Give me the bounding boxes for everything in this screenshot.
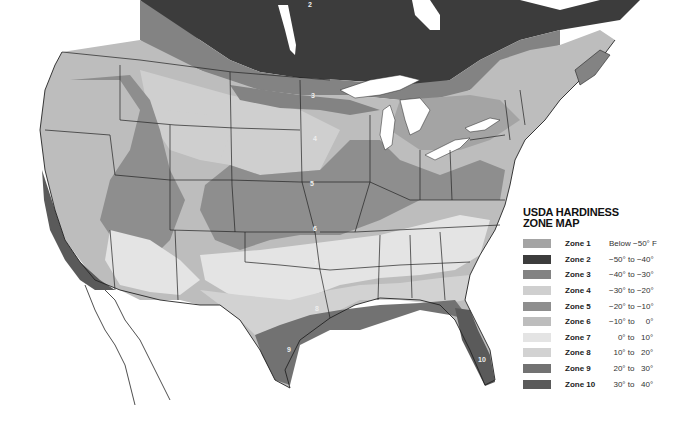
zone-range: 0° to 10° (609, 333, 653, 342)
zone-label-8: 8 (315, 305, 319, 312)
usda-hardiness-zone-map: 2 3 4 5 6 7 8 9 10 USDA HARDINESS ZONE M… (0, 0, 693, 421)
zone-name: Zone 8 (565, 348, 609, 357)
zone-label-6: 6 (313, 225, 317, 232)
swatch (523, 364, 551, 373)
zone-name: Zone 6 (565, 317, 609, 326)
zone-name: Zone 2 (565, 255, 609, 264)
legend-row-zone-7: Zone 7 0° to 10° (523, 330, 693, 346)
zone-label-3: 3 (311, 92, 315, 99)
legend-row-zone-3: Zone 3−40° to −30° (523, 267, 693, 283)
legend-rows: Zone 1Below −50° F Zone 2−50° to −40° Zo… (523, 236, 693, 392)
zone-range: 20° to 30° (609, 364, 653, 373)
legend-row-zone-8: Zone 8 10° to 20° (523, 345, 693, 361)
baja-california-outline (85, 285, 170, 405)
zone-range: −40° to −30° (609, 270, 654, 279)
swatch (523, 286, 551, 295)
legend-title-line-2: ZONE MAP (523, 218, 693, 229)
zone-range: −30° to −20° (609, 286, 654, 295)
zone-name: Zone 4 (565, 286, 609, 295)
swatch (523, 239, 551, 248)
legend-row-zone-1: Zone 1Below −50° F (523, 236, 693, 252)
swatch (523, 380, 551, 389)
zone-label-7: 7 (314, 259, 318, 266)
swatch (523, 270, 551, 279)
swatch (523, 255, 551, 264)
swatch (523, 348, 551, 357)
zone-range: 10° to 20° (609, 348, 653, 357)
legend-row-zone-9: Zone 9 20° to 30° (523, 361, 693, 377)
zone-range: 30° to 40° (609, 380, 653, 389)
legend-row-zone-10: Zone 10 30° to 40° (523, 376, 693, 392)
zone-label-4: 4 (313, 135, 317, 142)
legend-row-zone-6: Zone 6−10° to 0° (523, 314, 693, 330)
zone-range: −50° to −40° (609, 255, 654, 264)
zone-label-9: 9 (287, 346, 291, 353)
zone-name: Zone 10 (565, 380, 609, 389)
zone-name: Zone 1 (565, 239, 609, 248)
zone-name: Zone 7 (565, 333, 609, 342)
zone-name: Zone 5 (565, 302, 609, 311)
zone-name: Zone 9 (565, 364, 609, 373)
swatch (523, 302, 551, 311)
legend-row-zone-4: Zone 4−30° to −20° (523, 283, 693, 299)
zone-label-5: 5 (310, 180, 314, 187)
zone-label-10: 10 (478, 356, 486, 363)
legend-row-zone-2: Zone 2−50° to −40° (523, 252, 693, 268)
zone-range: −10° to 0° (609, 317, 653, 326)
zone-name: Zone 3 (565, 270, 609, 279)
swatch (523, 317, 551, 326)
zone-label-2: 2 (308, 1, 312, 8)
legend: USDA HARDINESS ZONE MAP Zone 1Below −50°… (523, 207, 693, 392)
swatch (523, 333, 551, 342)
legend-row-zone-5: Zone 5−20° to −10° (523, 298, 693, 314)
zone-range: −20° to −10° (609, 302, 654, 311)
zone-range: Below −50° F (609, 239, 657, 248)
